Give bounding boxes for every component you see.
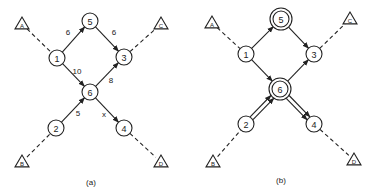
node-label: 1 (243, 50, 248, 60)
terminal-label: B (20, 161, 24, 167)
edge (61, 98, 84, 122)
node-label: 4 (311, 120, 316, 130)
dashed-connector (27, 29, 51, 53)
node-label: 5 (278, 15, 283, 25)
node-label: 6 (87, 88, 92, 98)
edge-weight-label: 8 (109, 76, 114, 85)
terminal-label: C (159, 23, 164, 29)
edge (289, 27, 309, 48)
node-label: 2 (243, 120, 248, 130)
edge (252, 27, 274, 49)
dashed-connector (218, 130, 241, 157)
node-label: 1 (54, 54, 59, 64)
critical-edge (286, 98, 307, 119)
dashed-connector (217, 28, 240, 49)
edge-weight-label: 6 (112, 28, 117, 37)
dashed-connector (130, 29, 156, 52)
terminal-label: A (20, 23, 24, 29)
terminal-label: A (210, 22, 214, 28)
terminal-label: B (211, 161, 215, 167)
dashed-connector (130, 133, 156, 157)
panel-caption: (a) (86, 178, 96, 187)
edge-weight-label: 10 (73, 67, 82, 76)
critical-edge (253, 98, 274, 119)
edge (252, 60, 273, 81)
dashed-connector (27, 134, 50, 157)
dashed-connector (320, 24, 345, 49)
network-diagram: 661085x153624ACBD(a) 153624ACBD(b) (0, 0, 372, 195)
edge (95, 98, 118, 122)
node-label: 4 (121, 124, 126, 134)
node-label: 2 (53, 124, 58, 134)
dashed-connector (320, 129, 349, 155)
terminal-label: D (352, 159, 357, 165)
panel-b: 153624ACBD(b) (205, 8, 361, 185)
terminal-label: C (348, 18, 353, 24)
edge (288, 60, 309, 81)
critical-edge (289, 95, 310, 116)
node-label: 6 (277, 85, 282, 95)
edge-weight-label: x (102, 110, 106, 119)
edge (96, 63, 119, 87)
node-label: 3 (121, 53, 126, 63)
node-label: 3 (311, 50, 316, 60)
terminal-label: D (159, 161, 164, 167)
panel-caption: (b) (276, 176, 286, 185)
panel-a: 661085x153624ACBD(a) (15, 13, 168, 187)
node-label: 5 (87, 17, 92, 27)
edge-weight-label: 6 (66, 28, 71, 37)
edge-weight-label: 5 (76, 109, 81, 118)
critical-edge (250, 95, 271, 116)
